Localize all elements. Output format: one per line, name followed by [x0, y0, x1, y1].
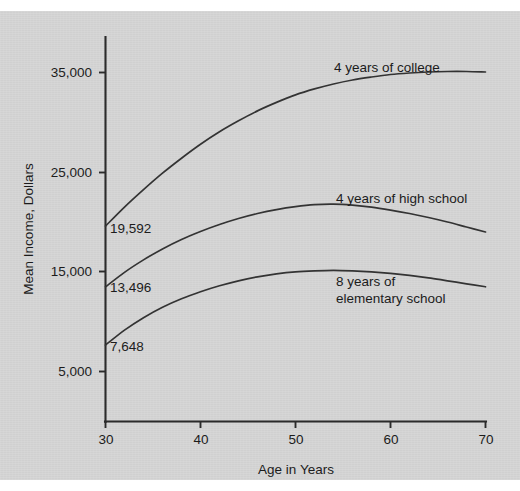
x-tick-label-70: 70 — [478, 432, 493, 447]
series-line-high-school — [106, 204, 486, 287]
chart-figure: 35,000 25,000 15,000 5,000 30 40 50 60 7… — [0, 11, 520, 480]
x-axis-title: Age in Years — [258, 462, 334, 477]
series-label-elementary-line1: 8 years of — [336, 274, 396, 289]
y-tick-label-35000: 35,000 — [51, 65, 92, 80]
y-tick-label-15000: 15,000 — [51, 264, 92, 279]
x-tick-label-30: 30 — [98, 432, 113, 447]
value-label-19592: 19,592 — [110, 221, 151, 236]
series-line-elementary — [106, 270, 486, 345]
series-label-high-school: 4 years of high school — [336, 191, 467, 206]
value-label-7648: 7,648 — [110, 339, 144, 354]
x-tick-label-50: 50 — [288, 432, 303, 447]
page-bottom-margin — [0, 480, 520, 491]
y-tick-label-5000: 5,000 — [58, 364, 92, 379]
y-axis-title: Mean Income, Dollars — [21, 163, 36, 295]
series-label-college: 4 years of college — [334, 60, 440, 75]
line-chart: 35,000 25,000 15,000 5,000 30 40 50 60 7… — [0, 11, 520, 480]
x-tick-label-60: 60 — [383, 432, 398, 447]
value-label-13496: 13,496 — [110, 280, 151, 295]
x-tick-label-40: 40 — [193, 432, 208, 447]
y-tick-label-25000: 25,000 — [51, 165, 92, 180]
series-label-elementary-line2: elementary school — [336, 291, 446, 306]
